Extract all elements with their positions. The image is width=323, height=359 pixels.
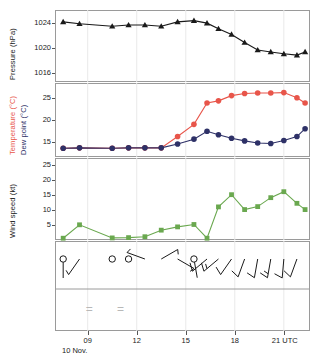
x-axis-date-label: 10 Nov. — [62, 346, 87, 355]
pressure-plot — [55, 10, 310, 82]
wind-barb — [109, 256, 115, 262]
axis-label-dewpoint: Dew point (°C) — [19, 105, 28, 155]
meteogram: Pressure (hPa) 101610201024 Temperature … — [0, 0, 323, 359]
windbarbs-plot: == — [55, 241, 310, 331]
x-tick-mark — [186, 331, 187, 335]
axis-label-temperature: Temperature (°C) — [8, 96, 17, 155]
wind-barb — [247, 259, 258, 278]
weather-symbol-mist: = — [86, 302, 93, 316]
wind-barb — [216, 259, 231, 275]
wind-barb — [125, 256, 131, 262]
y-tick-label: 1016 — [25, 68, 51, 77]
temperature-plot — [55, 83, 310, 157]
weather-symbol-mist: = — [117, 302, 124, 316]
wind-barb — [66, 259, 79, 275]
x-tick-mark — [137, 331, 138, 335]
x-tick-mark — [88, 331, 89, 335]
wind-barb — [232, 259, 245, 277]
wind-barb — [60, 256, 66, 278]
x-tick-mark — [284, 331, 285, 335]
y-tick-label: 20 — [25, 175, 51, 184]
y-tick-label: 25 — [25, 93, 51, 102]
y-tick-label: 1020 — [25, 43, 51, 52]
axis-label-windspeed: Wind speed (kt) — [8, 184, 17, 238]
x-tick-label: 18 — [220, 336, 250, 345]
y-tick-label: 20 — [25, 115, 51, 124]
y-tick-label: 25 — [25, 160, 51, 169]
wind-barb — [161, 250, 178, 260]
x-tick-label: 21 UTC — [272, 336, 318, 345]
y-tick-label: 1024 — [25, 18, 51, 27]
x-tick-mark — [235, 331, 236, 335]
wind-barb — [275, 259, 284, 278]
y-tick-label: 5 — [25, 220, 51, 229]
wind-barb — [201, 259, 218, 271]
x-tick-label: 09 — [73, 336, 103, 345]
y-tick-label: 15 — [25, 190, 51, 199]
axis-label-pressure: Pressure (hPa) — [8, 28, 17, 80]
y-tick-label: 15 — [25, 137, 51, 146]
wind-barb — [284, 259, 297, 277]
wind-barb — [127, 249, 145, 259]
x-tick-label: 15 — [171, 336, 201, 345]
wind-barb — [260, 259, 271, 278]
y-tick-label: 10 — [25, 205, 51, 214]
windspeed-plot — [55, 158, 310, 240]
x-tick-label: 12 — [122, 336, 152, 345]
